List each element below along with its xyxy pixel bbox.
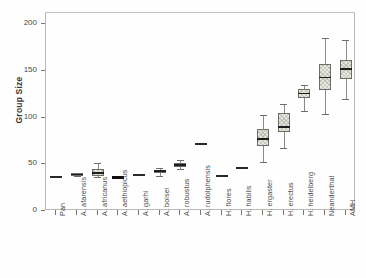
y-axis-tick-label: 200 xyxy=(7,18,37,27)
x-axis-tick-label: Pan xyxy=(58,203,67,216)
x-axis-tick-mark xyxy=(283,210,284,215)
x-axis-tick-mark xyxy=(179,210,180,215)
x-axis-tick-label: A. afarensis xyxy=(79,177,88,216)
x-axis-tick-mark xyxy=(262,210,263,215)
x-axis-tick-label: A. aethiopicus xyxy=(120,169,129,216)
y-axis-title: Group Size xyxy=(14,65,24,135)
y-axis-tick-label: 150 xyxy=(7,65,37,74)
x-axis-tick-label: A. robustus xyxy=(182,179,191,216)
y-axis-tick-label: 50 xyxy=(7,158,37,167)
x-axis-tick-label: A. garhi xyxy=(141,190,150,216)
x-axis-tick-mark xyxy=(159,210,160,215)
x-axis-tick-mark xyxy=(138,210,139,215)
x-axis-tick-mark xyxy=(345,210,346,215)
boxplot-figure: Group Size 050100150200 PanA. afarensisA… xyxy=(0,0,366,278)
x-axis-tick-label: A. rudolphensis xyxy=(203,165,212,216)
x-axis-tick-label: H. ergaster xyxy=(265,179,274,216)
x-axis-tick-label: H. erectus xyxy=(286,182,295,216)
x-axis-tick-label: Neanderthal xyxy=(327,176,336,216)
x-axis-tick-mark xyxy=(303,210,304,215)
x-axis-tick-mark xyxy=(97,210,98,215)
y-axis-tick-label: 100 xyxy=(7,112,37,121)
boxplot-whisker-cap xyxy=(342,40,349,41)
x-axis-tick-label: AMH xyxy=(348,200,357,216)
x-axis-tick-mark xyxy=(324,210,325,215)
boxplot-whisker-cap xyxy=(342,99,349,100)
boxplot-median-line xyxy=(340,68,352,70)
x-axis-tick-label: H. habilis xyxy=(244,185,253,216)
x-axis-tick-mark xyxy=(241,210,242,215)
x-axis-tick-label: A. boisei xyxy=(162,188,171,216)
y-axis-tick-mark xyxy=(41,210,45,211)
x-axis-tick-mark xyxy=(221,210,222,215)
x-axis-tick-label: H. flores xyxy=(224,188,233,216)
x-axis-tick-label: H. heidelberg xyxy=(306,172,315,216)
y-axis-tick-label: 0 xyxy=(7,205,37,214)
x-axis-tick-mark xyxy=(76,210,77,215)
x-axis-tick-mark xyxy=(55,210,56,215)
x-axis-tick-mark xyxy=(200,210,201,215)
x-axis-tick-mark xyxy=(117,210,118,215)
x-axis-tick-label: A. africanus xyxy=(100,177,109,216)
